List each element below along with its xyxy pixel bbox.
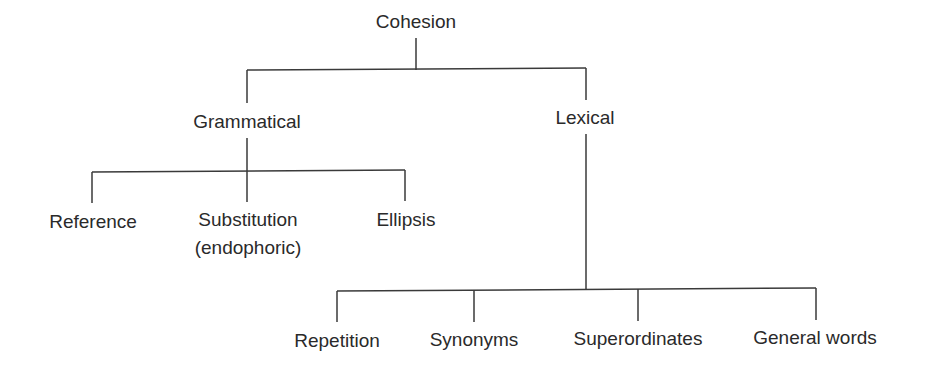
node-cohesion: Cohesion [376, 10, 456, 34]
connector-level1-bar [247, 68, 586, 70]
connector-grammatical-bar [92, 170, 405, 172]
node-general-words: General words [753, 326, 877, 350]
node-lexical: Lexical [555, 106, 614, 130]
node-ellipsis: Ellipsis [376, 208, 435, 232]
node-reference: Reference [49, 210, 137, 234]
node-repetition: Repetition [294, 329, 380, 353]
connector-lines [0, 0, 928, 368]
node-grammatical: Grammatical [193, 110, 301, 134]
connector-lexical-bar [337, 288, 816, 291]
node-substitution-label: Substitution [195, 208, 302, 232]
node-synonyms: Synonyms [430, 328, 519, 352]
node-substitution: Substitution (endophoric) [195, 208, 302, 260]
node-superordinates: Superordinates [574, 327, 703, 351]
node-substitution-sublabel: (endophoric) [195, 236, 302, 260]
